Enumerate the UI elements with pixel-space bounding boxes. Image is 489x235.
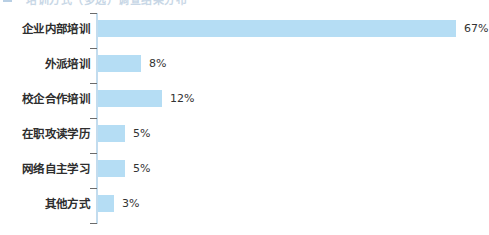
bar [98, 20, 456, 37]
bar-value-label: 3% [122, 197, 139, 211]
category-label: 外派培训 [0, 57, 90, 71]
category-label: 网络自主学习 [0, 162, 90, 176]
bar-value-label: 12% [170, 92, 194, 106]
bar [98, 90, 162, 107]
bar-value-label: 67% [464, 22, 488, 36]
bar-row: 其他方式3% [0, 188, 489, 223]
bar [98, 125, 125, 142]
category-label: 其他方式 [0, 197, 90, 211]
bar [98, 55, 141, 72]
bar-row: 外派培训8% [0, 48, 489, 83]
category-label: 在职攻读学历 [0, 127, 90, 141]
category-label: 校企合作培训 [0, 92, 90, 106]
bar-row: 校企合作培训12% [0, 83, 489, 118]
bullet-square-icon [3, 0, 12, 2]
bar-row: 在职攻读学历5% [0, 118, 489, 153]
header-remnant-text: 培训方式（多选）调查结果分布 [26, 0, 187, 7]
bar-value-label: 8% [149, 57, 166, 71]
cropped-header-remnant: 培训方式（多选）调查结果分布 [0, 0, 489, 9]
category-label: 企业内部培训 [0, 22, 90, 36]
bar-row: 企业内部培训67% [0, 13, 489, 48]
chart-page: 培训方式（多选）调查结果分布 企业内部培训67%外派培训8%校企合作培训12%在… [0, 0, 489, 235]
axis-tick [90, 223, 97, 224]
horizontal-bar-chart: 企业内部培训67%外派培训8%校企合作培训12%在职攻读学历5%网络自主学习5%… [0, 9, 489, 235]
bar-value-label: 5% [133, 127, 150, 141]
bar [98, 195, 114, 212]
bar-row: 网络自主学习5% [0, 153, 489, 188]
bar-value-label: 5% [133, 162, 150, 176]
bar [98, 160, 125, 177]
